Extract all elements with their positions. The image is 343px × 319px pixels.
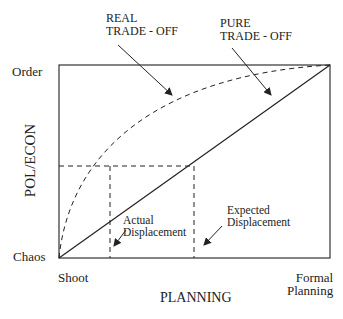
x-left-label: Shoot (58, 271, 88, 284)
actual-label-line1: Actual (123, 214, 186, 226)
real-trade-off-label: REAL TRADE - OFF (106, 12, 178, 38)
real-label-line2: TRADE - OFF (106, 25, 178, 38)
pure-arrow-icon (232, 48, 271, 95)
expected-label-line2: Displacement (227, 216, 290, 228)
pure-label-line2: TRADE - OFF (220, 30, 292, 43)
x-right-label-line2: Planning (287, 284, 333, 297)
actual-displacement-label: Actual Displacement (123, 214, 186, 238)
y-axis-title: POL/ECON (22, 121, 39, 201)
expected-arrow-icon (204, 226, 222, 245)
expected-displacement-label: Expected Displacement (227, 204, 290, 228)
pure-trade-off-label: PURE TRADE - OFF (220, 17, 292, 43)
x-right-label: Formal Planning (287, 271, 333, 297)
real-arrow-icon (118, 45, 172, 95)
y-bottom-label: Chaos (13, 250, 46, 263)
x-axis-title: PLANNING (160, 291, 232, 304)
actual-label-line2: Displacement (123, 226, 186, 238)
y-top-label: Order (12, 65, 42, 78)
expected-label-line1: Expected (227, 204, 290, 216)
